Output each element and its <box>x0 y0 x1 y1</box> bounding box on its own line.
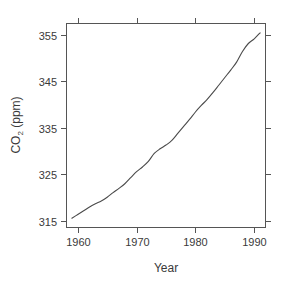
y-tick-label: 345 <box>39 76 57 88</box>
x-axis-tick-labels: 1960197019801990 <box>66 236 266 248</box>
y-axis-ticks-right <box>266 36 271 222</box>
x-tick-label: 1970 <box>125 236 149 248</box>
y-tick-label: 315 <box>39 216 57 228</box>
y-axis-ticks-left <box>61 36 66 222</box>
y-tick-label: 355 <box>39 30 57 42</box>
x-axis-title: Year <box>154 261 178 275</box>
x-axis-ticks-top <box>79 18 255 23</box>
y-axis-tick-labels: 315325335345355 <box>39 30 57 228</box>
x-tick-label: 1960 <box>66 236 90 248</box>
y-axis-title-group: CO2 (ppm) <box>9 96 25 153</box>
x-axis-ticks-bottom <box>79 228 255 233</box>
x-tick-label: 1990 <box>242 236 266 248</box>
plot-frame <box>67 24 266 228</box>
chart-canvas: 1960197019801990 315325335345355 Year CO… <box>0 0 290 285</box>
y-tick-label: 325 <box>39 169 57 181</box>
co2-line-chart-figure: 1960197019801990 315325335345355 Year CO… <box>0 0 290 285</box>
x-tick-label: 1980 <box>183 236 207 248</box>
data-series-line <box>72 33 260 218</box>
y-axis-title: CO2 (ppm) <box>9 96 25 153</box>
y-tick-label: 335 <box>39 123 57 135</box>
